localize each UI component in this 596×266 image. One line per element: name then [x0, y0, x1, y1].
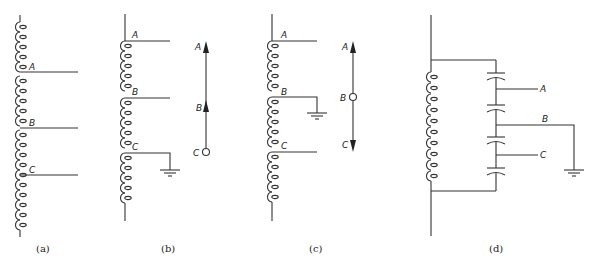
tap-label-d-C: C: [540, 150, 547, 160]
ground-icon: [160, 170, 180, 176]
phasor-label-b-A: A: [194, 42, 201, 52]
tap-label-c-A: A: [280, 30, 287, 40]
phasor-origin-icon: [350, 94, 357, 101]
panel-d: A B C (d): [427, 15, 585, 254]
phasor-origin-icon: [203, 149, 210, 156]
transformer-tap-diagram: A B C (a) A B C A B C: [0, 0, 596, 266]
winding-b: [121, 41, 132, 203]
panel-b: A B C A B C (b): [121, 14, 210, 254]
tap-line-b-C: [125, 153, 170, 170]
caption-d: (d): [489, 243, 503, 254]
phasor-label-c-B: B: [340, 93, 346, 103]
caption-c: (c): [309, 243, 323, 254]
tap-label-c-C: C: [281, 141, 288, 151]
tap-label-d-A: A: [539, 84, 546, 94]
tap-label-b-C: C: [132, 142, 139, 152]
arrow-head-A-icon: [203, 41, 209, 53]
tap-line-c-B: [272, 97, 317, 113]
winding-c: [268, 41, 279, 202]
phasor-label-b-C: C: [193, 148, 200, 158]
arrow-head-C-icon: [350, 140, 356, 152]
panel-c: A B C A B C (c): [268, 14, 357, 254]
tap-label-b-A: A: [131, 30, 138, 40]
ground-icon: [307, 113, 327, 119]
tap-label-c-B: B: [281, 87, 287, 97]
phasor-c: A B C: [340, 41, 357, 152]
winding-d: [427, 72, 438, 181]
phasor-label-c-C: C: [342, 140, 349, 150]
tap-line-d-B: [496, 125, 574, 170]
phasor-label-b-B: B: [196, 103, 202, 113]
ground-icon: [564, 170, 584, 176]
phasor-label-c-A: A: [341, 42, 348, 52]
tap-label-a-A: A: [28, 62, 35, 72]
tap-label-a-C: C: [29, 165, 36, 175]
caption-a: (a): [36, 243, 50, 254]
tap-label-b-B: B: [132, 87, 138, 97]
panel-a: A B C (a): [16, 15, 79, 254]
caption-b: (b): [161, 243, 175, 254]
tap-label-a-B: B: [29, 118, 35, 128]
tap-label-d-B: B: [542, 114, 548, 124]
arrow-head-A-icon: [350, 41, 356, 53]
arrow-head-B-icon: [203, 100, 209, 112]
winding-a: [16, 22, 27, 230]
phasor-b: A B C: [193, 41, 210, 158]
